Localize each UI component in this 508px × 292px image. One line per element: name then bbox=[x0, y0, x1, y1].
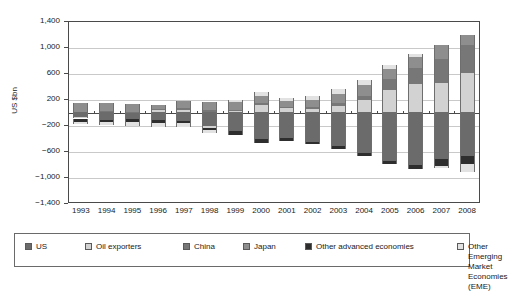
x-axis-tick-label: 2001 bbox=[273, 206, 301, 215]
bar-group[interactable] bbox=[357, 21, 372, 203]
bar-group[interactable] bbox=[331, 21, 346, 203]
bar-segment bbox=[357, 85, 372, 96]
x-axis-tick-label: 1995 bbox=[118, 206, 146, 215]
bar-segment bbox=[279, 98, 294, 101]
bar-segment bbox=[254, 92, 269, 95]
legend-item[interactable]: US bbox=[25, 242, 47, 252]
x-axis-tick-label: 2007 bbox=[427, 206, 455, 215]
bar-segment bbox=[408, 165, 423, 170]
bar-segment bbox=[408, 112, 423, 165]
x-axis-tick-mark bbox=[326, 111, 327, 114]
legend-swatch-icon bbox=[183, 243, 190, 250]
x-axis-tick-mark bbox=[403, 111, 404, 114]
bar-segment bbox=[176, 110, 191, 112]
y-axis-tick-label: −1,400 bbox=[0, 199, 60, 207]
x-axis-tick-label: 1993 bbox=[67, 206, 95, 215]
bar-segment bbox=[382, 69, 397, 80]
bar-segment bbox=[279, 138, 294, 141]
bar-group[interactable] bbox=[202, 21, 217, 203]
bar-group[interactable] bbox=[99, 21, 114, 203]
chart-legend: USOil exportersChinaJapanOther advanced … bbox=[14, 233, 470, 267]
bar-segment bbox=[202, 130, 217, 133]
x-axis-tick-mark bbox=[300, 111, 301, 114]
bar-segment bbox=[99, 112, 114, 120]
bar-segment bbox=[254, 103, 269, 104]
legend-item[interactable]: Other Emerging Market Economies (EME) bbox=[457, 242, 508, 292]
x-axis-tick-label: 2002 bbox=[299, 206, 327, 215]
bar-group[interactable] bbox=[125, 21, 140, 203]
bar-segment bbox=[151, 109, 166, 110]
x-axis-tick-label: 2004 bbox=[350, 206, 378, 215]
y-axis-tick-label: 200 bbox=[0, 95, 60, 103]
bar-segment bbox=[151, 112, 166, 120]
bar-segment bbox=[434, 83, 449, 112]
legend-swatch-icon bbox=[243, 243, 250, 250]
legend-item[interactable]: Japan bbox=[243, 242, 276, 252]
bar-segment bbox=[202, 112, 217, 126]
bar-segment bbox=[357, 153, 372, 156]
bar-segment bbox=[460, 156, 475, 165]
bar-group[interactable] bbox=[382, 21, 397, 203]
bar-group[interactable] bbox=[176, 21, 191, 203]
bar-segment bbox=[382, 79, 397, 89]
bar-segment bbox=[279, 107, 294, 108]
bar-segment bbox=[125, 112, 140, 113]
legend-item[interactable]: China bbox=[183, 242, 215, 252]
bar-group[interactable] bbox=[151, 21, 166, 203]
y-axis-tick-label: −1,000 bbox=[0, 173, 60, 181]
bar-segment bbox=[202, 102, 217, 110]
bar-segment bbox=[331, 89, 346, 94]
bar-segment bbox=[176, 108, 191, 110]
bar-segment bbox=[279, 101, 294, 107]
legend-item[interactable]: Other advanced economies bbox=[305, 242, 414, 252]
bar-group[interactable] bbox=[305, 21, 320, 203]
y-axis-tick-label: 600 bbox=[0, 69, 60, 77]
bar-group[interactable] bbox=[434, 21, 449, 203]
bar-segment bbox=[228, 131, 243, 135]
bar-segment bbox=[408, 84, 423, 112]
x-axis-tick-mark bbox=[223, 111, 224, 114]
x-axis-tick-label: 2006 bbox=[402, 206, 430, 215]
legend-label: China bbox=[194, 242, 215, 252]
bar-segment bbox=[382, 90, 397, 112]
y-axis-tick-mark bbox=[64, 203, 68, 204]
bar-segment bbox=[254, 139, 269, 143]
x-axis-tick-mark bbox=[377, 111, 378, 114]
bar-segment bbox=[460, 73, 475, 112]
bar-segment bbox=[434, 159, 449, 166]
bar-group[interactable] bbox=[408, 21, 423, 203]
bar-segment bbox=[331, 146, 346, 149]
bar-segment bbox=[305, 109, 320, 112]
y-axis-tick-label: −200 bbox=[0, 121, 60, 129]
x-axis-tick-label: 2005 bbox=[376, 206, 404, 215]
x-axis-tick-mark bbox=[145, 111, 146, 114]
legend-label: Oil exporters bbox=[96, 242, 141, 252]
bar-segment bbox=[305, 107, 320, 109]
bar-group[interactable] bbox=[460, 21, 475, 203]
bar-segment bbox=[176, 123, 191, 127]
x-axis-tick-mark bbox=[248, 111, 249, 114]
y-axis-tick-label: 1,400 bbox=[0, 17, 60, 25]
bar-segment bbox=[254, 105, 269, 112]
bar-segment bbox=[228, 100, 243, 102]
bar-segment bbox=[434, 59, 449, 83]
x-axis-tick-label: 1996 bbox=[144, 206, 172, 215]
x-axis-tick-mark bbox=[274, 111, 275, 114]
bar-segment bbox=[408, 57, 423, 68]
x-axis-tick-label: 2008 bbox=[453, 206, 481, 215]
bar-segment bbox=[382, 65, 397, 69]
bar-group[interactable] bbox=[254, 21, 269, 203]
x-axis-tick-mark bbox=[171, 111, 172, 114]
bar-group[interactable] bbox=[279, 21, 294, 203]
bar-group[interactable] bbox=[73, 21, 88, 203]
bar-segment bbox=[228, 110, 243, 111]
bar-segment bbox=[125, 104, 140, 111]
bar-segment bbox=[254, 96, 269, 104]
bar-segment bbox=[357, 100, 372, 112]
bar-segment bbox=[460, 112, 475, 156]
x-axis-tick-label: 1998 bbox=[196, 206, 224, 215]
bar-segment bbox=[228, 111, 243, 112]
bar-group[interactable] bbox=[228, 21, 243, 203]
x-axis-tick-mark bbox=[94, 111, 95, 114]
legend-item[interactable]: Oil exporters bbox=[85, 242, 141, 252]
